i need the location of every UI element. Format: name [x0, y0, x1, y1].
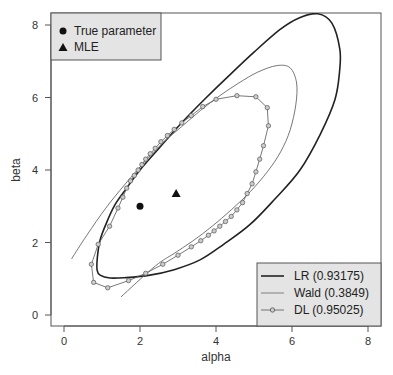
legend-dl-marker: [270, 308, 274, 312]
series-dl-point-2: [265, 105, 269, 109]
series-dl-point-40: [180, 121, 184, 125]
series-dl-point-23: [91, 280, 95, 284]
series-dl-point-14: [212, 229, 216, 233]
series-dl-point-29: [125, 186, 129, 190]
series-dl-point-37: [159, 140, 163, 144]
series-dl-point-27: [116, 206, 120, 210]
series-dl-point-6: [254, 170, 258, 174]
series-dl-point-38: [165, 133, 169, 137]
series-dl-point-3: [266, 124, 270, 128]
x-axis-label: alpha: [201, 350, 231, 364]
series-dl-point-43: [214, 97, 218, 101]
series-dl-point-24: [89, 262, 93, 266]
legend-series: LR (0.93175) Wald (0.3849) DL (0.95025): [257, 263, 381, 326]
y-axis: 02468: [32, 19, 51, 321]
y-tick-label-8: 8: [32, 19, 38, 31]
series-dl-point-0: [235, 93, 239, 97]
legend-points: True parameter MLE: [51, 13, 161, 60]
series-dl-point-32: [136, 168, 140, 172]
series-dl-point-33: [140, 162, 144, 166]
series-dl-point-22: [106, 286, 110, 290]
series-dl-point-7: [250, 182, 254, 186]
series-dl-point-12: [223, 219, 227, 223]
series-dl-point-4: [261, 144, 265, 148]
series-dl-point-30: [128, 179, 132, 183]
series-dl-point-26: [107, 224, 111, 228]
legend-dl-label: DL (0.95025): [294, 303, 364, 317]
series-dl-point-36: [153, 146, 157, 150]
series-dl-point-35: [148, 151, 152, 155]
series-dl-point-11: [229, 214, 233, 218]
series-dl-point-25: [96, 242, 100, 246]
series-dl-point-5: [258, 157, 262, 161]
y-tick-label-0: 0: [32, 309, 38, 321]
legend-wald-label: Wald (0.3849): [294, 286, 369, 300]
legend-true-parameter-marker: [60, 28, 67, 35]
series-dl-point-18: [176, 253, 180, 257]
series-dl-point-15: [206, 233, 210, 237]
y-tick-label-6: 6: [32, 92, 38, 104]
chart: 02468 02468 alpha beta True parameter ML…: [0, 0, 393, 375]
series-dl-point-41: [189, 113, 193, 117]
series-dl-point-39: [172, 127, 176, 131]
y-axis-label: beta: [9, 158, 23, 182]
legend-true-parameter-label: True parameter: [74, 24, 156, 38]
series-dl-point-42: [201, 104, 205, 108]
series-dl-point-13: [218, 224, 222, 228]
series-dl-point-1: [254, 95, 258, 99]
series-dl-point-9: [240, 200, 244, 204]
legend-lr-label: LR (0.93175): [294, 269, 364, 283]
series-dl-point-34: [144, 157, 148, 161]
x-tick-label-4: 4: [213, 335, 219, 347]
series-dl-point-28: [121, 195, 125, 199]
x-tick-label-2: 2: [137, 335, 143, 347]
series-dl-point-17: [189, 245, 193, 249]
y-tick-label-4: 4: [32, 164, 38, 176]
series-dl-point-19: [161, 262, 165, 266]
point-true-parameter: [137, 203, 144, 210]
legend-mle-label: MLE: [74, 40, 99, 54]
x-tick-label-6: 6: [289, 335, 295, 347]
series-dl-point-20: [144, 271, 148, 275]
series-dl-point-8: [245, 191, 249, 195]
x-tick-label-8: 8: [365, 335, 371, 347]
y-tick-label-2: 2: [32, 237, 38, 249]
x-axis: 02468: [61, 326, 371, 347]
x-tick-label-0: 0: [61, 335, 67, 347]
series-dl-point-21: [126, 278, 130, 282]
series-dl-point-16: [199, 238, 203, 242]
series-dl-point-31: [132, 173, 136, 177]
series-dl-point-10: [235, 208, 239, 212]
